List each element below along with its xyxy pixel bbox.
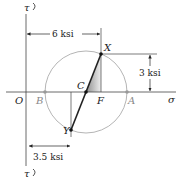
- dim-6ksi-label: 6 ksi: [52, 29, 74, 39]
- point-x: [99, 52, 103, 56]
- label-a: A: [127, 95, 135, 106]
- mohr-circle-diagram: 6 ksi 3 ksi 3.5 ksi X C F A B Y O σ τ τ: [0, 0, 180, 184]
- curl-arrow-icon-top: [33, 3, 35, 10]
- label-origin: O: [15, 95, 23, 106]
- point-c: [84, 90, 88, 94]
- diagram-canvas: 6 ksi 3 ksi 3.5 ksi X C F A B Y O σ τ τ: [0, 0, 180, 184]
- dim-3-5ksi-label: 3.5 ksi: [33, 152, 63, 162]
- curl-arrow-icon-bottom: [33, 169, 35, 176]
- label-sigma: σ: [168, 94, 176, 105]
- label-tau-top: τ: [24, 2, 30, 13]
- label-f: F: [96, 95, 105, 106]
- point-a: [125, 90, 129, 94]
- label-b: B: [35, 95, 43, 106]
- dim-3ksi-label: 3 ksi: [139, 68, 161, 78]
- label-c: C: [77, 80, 85, 91]
- label-tau-bottom: τ: [24, 168, 30, 179]
- label-x: X: [103, 42, 112, 53]
- point-b: [43, 90, 47, 94]
- point-y: [69, 128, 73, 132]
